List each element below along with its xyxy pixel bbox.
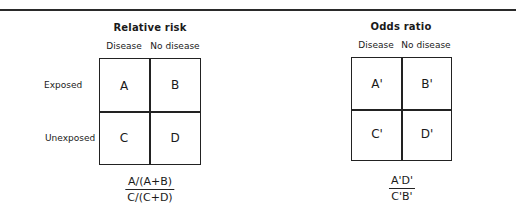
odds-ratio-table: A' B' C' D' — [351, 57, 452, 161]
or-formula-numerator: A'D' — [389, 174, 415, 187]
rr-cell-c: C — [120, 131, 128, 145]
grid-divider-horizontal — [352, 109, 451, 111]
rr-cell-a: A — [120, 79, 128, 93]
or-cell-d: D' — [421, 127, 434, 141]
or-column-no-disease: No disease — [401, 40, 450, 50]
rr-column-no-disease: No disease — [150, 41, 199, 51]
fraction-bar — [125, 189, 174, 190]
rr-row-unexposed: Unexposed — [45, 133, 95, 143]
odds-ratio-formula: A'D' C'B' — [389, 174, 415, 203]
relative-risk-title: Relative risk — [113, 22, 186, 33]
or-cell-b: B' — [421, 77, 433, 91]
rr-row-exposed: Exposed — [44, 80, 82, 90]
odds-ratio-title: Odds ratio — [370, 21, 431, 32]
or-cell-a: A' — [371, 77, 383, 91]
or-formula-denominator: C'B' — [389, 190, 415, 203]
rr-formula-denominator: C/(C+D) — [125, 191, 174, 204]
or-column-disease: Disease — [358, 40, 393, 50]
relative-risk-formula: A/(A+B) C/(C+D) — [125, 175, 174, 204]
fraction-bar — [389, 188, 415, 189]
top-rule — [0, 9, 516, 11]
rr-cell-b: B — [171, 78, 179, 92]
rr-column-disease: Disease — [106, 41, 141, 51]
relative-risk-table: A B C D — [99, 58, 201, 165]
or-cell-c: C' — [371, 127, 383, 141]
rr-cell-d: D — [170, 131, 179, 145]
rr-formula-numerator: A/(A+B) — [125, 175, 174, 188]
grid-divider-horizontal — [100, 111, 200, 113]
